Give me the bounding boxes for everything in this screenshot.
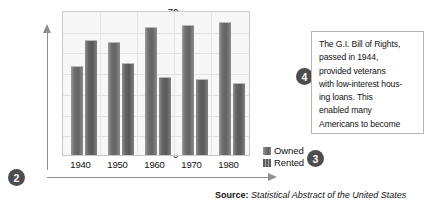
bar-rented-1980 [233, 83, 245, 156]
callout-line-2: passed in 1944, [319, 51, 416, 64]
callout-line-5: ing loans. This [319, 91, 416, 104]
bar-owned-1980 [219, 22, 231, 156]
x-tick-1980: 1980 [210, 159, 247, 170]
vgridline-3 [174, 12, 175, 155]
legend-label-rented: Rented [274, 158, 304, 168]
legend-item-owned: Owned [263, 145, 304, 156]
source-title: Statistical Abstract of the United State… [251, 190, 406, 200]
step-marker-2: 2 [8, 169, 25, 186]
source-label: Source: [215, 190, 249, 200]
plot-wrapper [62, 11, 250, 156]
vgridline-2 [137, 12, 138, 155]
legend-item-rented: Rented [263, 157, 304, 168]
bar-rented-1940 [85, 40, 97, 155]
x-tick-1950: 1950 [99, 159, 136, 170]
bar-rented-1950 [122, 63, 134, 155]
legend-label-owned: Owned [274, 146, 304, 156]
bar-owned-1940 [71, 66, 83, 155]
callout-line-3: provided veterans [319, 65, 416, 78]
bar-owned-1960 [145, 27, 157, 155]
legend-swatch-owned-icon [263, 147, 271, 155]
callout-box: The G.I. Bill of Rights, passed in 1944,… [311, 31, 424, 134]
plot-area [62, 11, 250, 156]
callout-line-7: Americans to become [319, 118, 416, 131]
x-tick-1940: 1940 [62, 159, 99, 170]
source-line: Source: Statistical Abstract of the Unit… [215, 190, 406, 200]
callout-line-6: enabled many [319, 104, 416, 117]
callout-line-4: with low-interest hous- [319, 78, 416, 91]
x-tick-1970: 1970 [173, 159, 210, 170]
bar-chart-figure: Percentage 70 60 50 40 30 20 10 0 [0, 0, 432, 209]
bar-owned-1950 [108, 42, 120, 155]
bar-rented-1960 [159, 77, 171, 155]
bar-owned-1970 [182, 25, 194, 156]
x-tick-1960: 1960 [136, 159, 173, 170]
chart-legend: Owned Rented [263, 145, 304, 169]
step-marker-3: 3 [307, 150, 324, 167]
vgridline-1 [100, 12, 101, 155]
legend-swatch-rented-icon [263, 159, 271, 167]
bar-rented-1970 [196, 79, 208, 155]
callout-line-1: The G.I. Bill of Rights, [319, 38, 416, 51]
vgridline-4 [211, 12, 212, 155]
